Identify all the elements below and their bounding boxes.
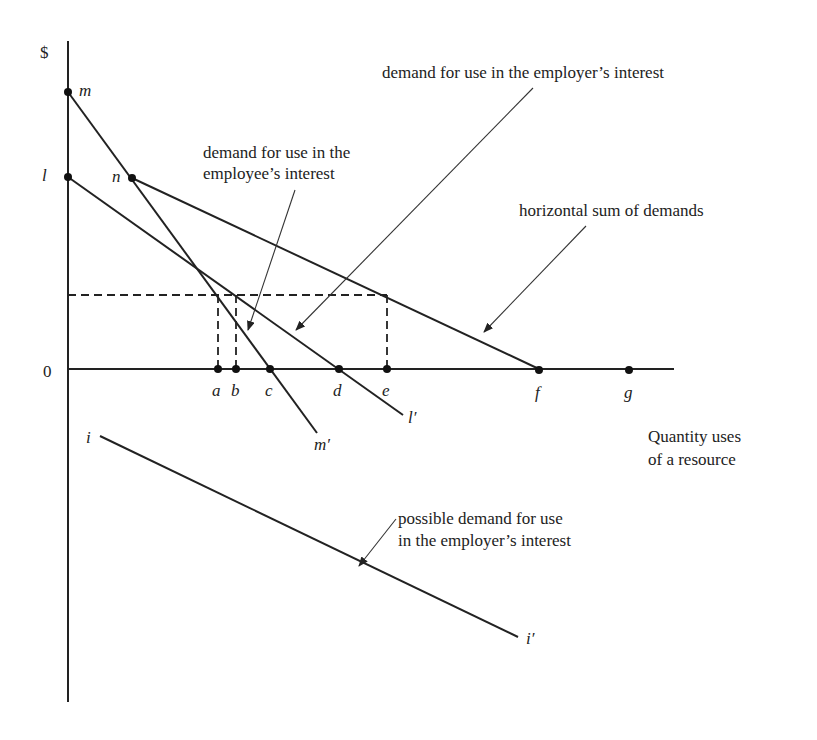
point-g-label: g	[624, 383, 633, 402]
point-e-dot	[383, 365, 391, 373]
point-f-dot	[535, 366, 543, 374]
demand-diagram: $ 0 Quantity uses of a resource m l n a …	[0, 0, 817, 740]
point-n-dot	[128, 174, 136, 182]
employer-leader-arrow	[296, 88, 533, 330]
point-l-prime-label: l′	[408, 408, 417, 427]
point-e-label: e	[382, 381, 390, 400]
y-axis-label: $	[40, 43, 49, 62]
point-m-prime-label: m′	[314, 435, 330, 454]
origin-label: 0	[43, 362, 52, 381]
possible-demand-annotation-line1: possible demand for use	[398, 509, 563, 528]
point-i-prime-label: i′	[526, 629, 535, 648]
point-l-dot	[64, 173, 72, 181]
employee-demand-annotation-line1: demand for use in the	[203, 143, 350, 162]
point-l-label: l	[42, 166, 47, 185]
x-axis-title-line2: of a resource	[648, 450, 736, 469]
point-a-label: a	[212, 381, 221, 400]
point-m-dot	[64, 88, 72, 96]
point-d-dot	[335, 365, 343, 373]
employee-demand-annotation-line2: employee’s interest	[203, 164, 335, 183]
point-m-label: m	[79, 81, 91, 100]
point-c-label: c	[265, 381, 273, 400]
point-c-dot	[266, 365, 274, 373]
point-i-label: i	[86, 428, 91, 447]
possible-leader-arrow	[359, 519, 396, 566]
employee-demand-curve	[68, 177, 403, 415]
x-axis-title-line1: Quantity uses	[648, 427, 741, 446]
point-b-dot	[232, 365, 240, 373]
point-g-dot	[625, 366, 633, 374]
point-n-label: n	[112, 167, 121, 186]
point-a-dot	[214, 365, 222, 373]
employer-demand-annotation: demand for use in the employer’s interes…	[382, 63, 664, 82]
point-f-label: f	[535, 383, 542, 402]
horizontal-sum-curve	[132, 178, 539, 369]
point-b-label: b	[231, 381, 240, 400]
possible-demand-annotation-line2: in the employer’s interest	[398, 531, 571, 550]
sum-leader-arrow	[484, 226, 586, 332]
point-d-label: d	[333, 381, 342, 400]
horizontal-sum-annotation: horizontal sum of demands	[519, 201, 704, 220]
employee-leader-arrow	[248, 190, 295, 330]
